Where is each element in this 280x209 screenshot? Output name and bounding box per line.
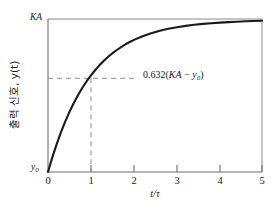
x-tick-label-2: 2 bbox=[131, 176, 136, 187]
guide-lines bbox=[48, 78, 138, 172]
y-axis-bottom-label: y0 bbox=[31, 163, 39, 174]
y-axis-title: 출력 신호, y(t) bbox=[9, 61, 20, 130]
x-tick-label-4: 4 bbox=[217, 176, 222, 187]
x-tick-label-1: 1 bbox=[88, 176, 93, 187]
first-order-response-chart: KA y0 0 1 2 3 4 5 t/τ 출력 신호, y(t) 0.632(… bbox=[0, 0, 280, 209]
x-axis-ticks bbox=[91, 165, 262, 172]
annotation-suffix: ) bbox=[200, 69, 203, 80]
tau-value-annotation: 0.632(KA − y0) bbox=[143, 70, 204, 82]
annotation-minus: − bbox=[182, 69, 193, 80]
x-tick-label-5: 5 bbox=[259, 176, 264, 187]
annotation-prefix: 0.632( bbox=[143, 69, 169, 80]
annotation-ka: KA bbox=[169, 69, 182, 80]
y0-subscript: 0 bbox=[35, 166, 39, 174]
x-tick-label-0: 0 bbox=[45, 176, 50, 187]
x-axis-title: t/τ bbox=[150, 189, 160, 200]
y-axis-top-label: KA bbox=[30, 13, 42, 23]
x-tick-label-3: 3 bbox=[174, 176, 179, 187]
response-curve bbox=[48, 21, 262, 172]
axis-frame bbox=[48, 19, 262, 172]
chart-canvas bbox=[0, 0, 280, 209]
